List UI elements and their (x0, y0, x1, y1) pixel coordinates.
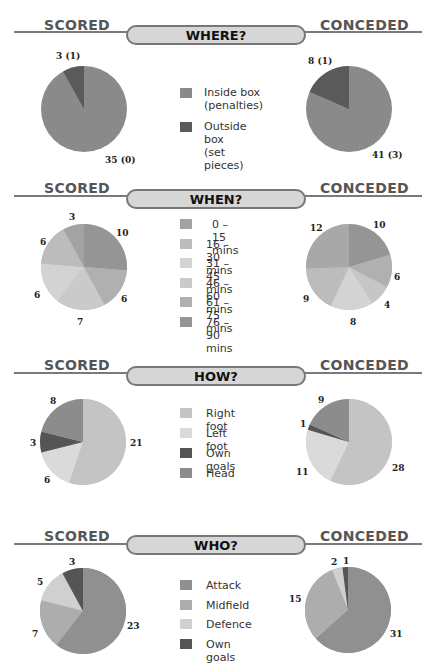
legend-label: Attack (206, 579, 241, 592)
pie-label: 9 (318, 395, 324, 405)
legend-swatch (180, 428, 192, 438)
legend-label: Own goals (206, 638, 235, 664)
pie-label: 35 (0) (105, 155, 135, 165)
pie-label: 10 (116, 228, 129, 238)
legend-label: 76 – 90 mins (206, 316, 232, 355)
pie-label: 6 (44, 475, 50, 485)
pie-label: 3 (1) (56, 51, 80, 61)
pie-conceded-how (305, 398, 393, 486)
legend-swatch (180, 88, 192, 98)
section-title: HOW? (126, 366, 306, 386)
conceded-label: CONCEDED (320, 528, 409, 544)
section-title: WHO? (126, 535, 306, 555)
pie-label: 3 (69, 212, 75, 222)
pie-label: 41 (3) (372, 150, 402, 160)
legend-swatch (180, 258, 192, 268)
pie-conceded-who (304, 566, 392, 654)
legend-swatch (180, 580, 192, 590)
pie-label: 28 (392, 463, 405, 473)
section-title: WHERE? (126, 25, 306, 45)
legend-swatch (180, 600, 192, 610)
pie-scored-where (40, 65, 128, 153)
pie-label: 4 (384, 300, 390, 310)
legend-swatch (180, 239, 192, 249)
legend-swatch (180, 408, 192, 418)
pie-label: 3 (30, 438, 36, 448)
scored-label: SCORED (44, 528, 110, 544)
pie-label: 7 (77, 317, 83, 327)
legend-swatch (180, 317, 192, 327)
pie-scored-how (39, 398, 127, 486)
legend-swatch (180, 448, 192, 458)
pie-label: 6 (121, 294, 127, 304)
pie-label: 6 (34, 290, 40, 300)
pie-label: 11 (296, 467, 309, 477)
legend-label: Head (206, 467, 235, 480)
conceded-label: CONCEDED (320, 180, 409, 196)
pie-label: 10 (373, 220, 386, 230)
pie-label: 21 (130, 438, 143, 448)
pie-label: 12 (310, 223, 323, 233)
pie-scored-who (39, 567, 127, 655)
pie-label: 6 (40, 237, 46, 247)
legend-swatch (180, 639, 192, 649)
pie-scored-when (40, 223, 128, 311)
pie-label: 23 (127, 621, 140, 631)
pie-label: 8 (50, 396, 56, 406)
section-title: WHEN? (126, 189, 306, 209)
legend-label: Midfield (206, 599, 249, 612)
legend-swatch (180, 297, 192, 307)
legend-label: Defence (206, 618, 252, 631)
scored-label: SCORED (44, 357, 110, 373)
conceded-label: CONCEDED (320, 357, 409, 373)
legend-swatch (180, 619, 192, 629)
pie-label: 31 (390, 629, 403, 639)
pie-conceded-when (305, 223, 393, 311)
conceded-label: CONCEDED (320, 17, 409, 33)
pie-label: 7 (32, 629, 38, 639)
pie-label: 2 (331, 557, 337, 567)
pie-label: 8 (1) (308, 56, 332, 66)
pie-label: 6 (394, 272, 400, 282)
pie-label: 5 (37, 577, 43, 587)
pie-label: 1 (343, 556, 349, 566)
pie-conceded-where (305, 65, 393, 153)
legend-swatch (180, 278, 192, 288)
legend-swatch (180, 468, 192, 478)
pie-label: 1 (300, 419, 306, 429)
pie-label: 9 (303, 294, 309, 304)
pie-label: 3 (69, 557, 75, 567)
legend-label: Outside box (set pieces) (204, 120, 246, 172)
pie-label: 15 (289, 594, 302, 604)
scored-label: SCORED (44, 180, 110, 196)
legend-label: Inside box (penalties) (204, 86, 263, 112)
scored-label: SCORED (44, 17, 110, 33)
legend-swatch (180, 219, 192, 229)
pie-label: 8 (350, 317, 356, 327)
legend-swatch (180, 122, 192, 132)
